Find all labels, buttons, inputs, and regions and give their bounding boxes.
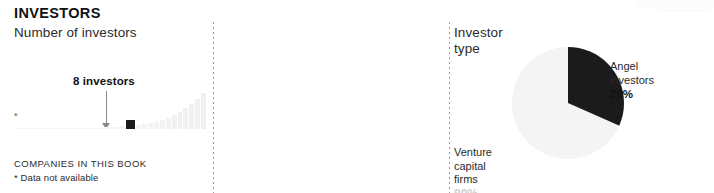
bar-4 [32, 128, 37, 130]
bar-30 [189, 104, 194, 129]
bar-5 [38, 128, 43, 130]
bar-23 [148, 123, 153, 129]
bar-11 [73, 128, 78, 130]
panel-primary-locations: Primary locations San Francisco New York… [462, 0, 714, 193]
bar-25 [160, 120, 165, 129]
axis-caption-companies: COMPANIES IN THIS BOOK [14, 158, 147, 169]
panel-divider-2 [449, 22, 450, 193]
bar-28 [178, 112, 183, 129]
infographic-page: INVESTORS Number of investors 8 investor… [0, 0, 714, 193]
panel-heading-investors: Number of investors [14, 25, 137, 41]
panel-number-of-investors: Number of investors 8 investors * COMPAN… [0, 0, 208, 193]
bar-15 [97, 128, 102, 130]
bar-26 [166, 118, 171, 129]
bar-18 [114, 127, 119, 129]
bar-6 [44, 128, 49, 130]
bar-13 [85, 128, 90, 130]
bar-17 [109, 127, 114, 129]
bar-8 [55, 128, 60, 130]
bar-highlighted-marker [126, 120, 135, 129]
bar-21 [136, 125, 141, 129]
bar-9 [61, 128, 66, 130]
bar-2 [20, 128, 25, 130]
bar-29 [183, 108, 188, 129]
callout-label-8-investors: 8 investors [73, 75, 135, 87]
bar-7 [49, 128, 54, 130]
bar-22 [142, 124, 147, 129]
bar-1 [14, 128, 19, 130]
bar-31 [195, 99, 200, 129]
bar-27 [172, 115, 177, 129]
bar-3 [26, 128, 31, 130]
footnote-data-not-available: * Data not available [14, 172, 98, 183]
bar-12 [79, 128, 84, 130]
bar-24 [154, 122, 159, 129]
bar-10 [67, 128, 72, 130]
bar-16 [103, 127, 108, 129]
bar-32 [201, 93, 206, 129]
bar-chart [14, 93, 206, 129]
panel-investor-type: Investor type Angel investors 20% Ventur… [226, 0, 441, 193]
bar-19 [120, 126, 125, 129]
panel-divider-1 [213, 22, 214, 193]
bar-14 [91, 128, 96, 130]
